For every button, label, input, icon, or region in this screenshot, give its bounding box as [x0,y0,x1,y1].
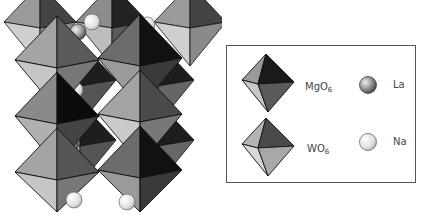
mgo6-octahedron-icon [238,52,298,114]
na-sphere-icon [358,132,378,152]
na-label: Na [393,136,407,147]
a-site-cations-bottom [66,192,135,210]
mgo6-label: MgO6 [305,81,332,94]
wo6-octahedron-icon [238,116,298,178]
wo6-label: WO6 [307,143,329,156]
la-label: La [393,79,405,90]
legend: MgO6 WO6 La Na [226,45,416,183]
crystal-structure-diagram [0,0,222,223]
la-sphere-icon [358,75,378,95]
